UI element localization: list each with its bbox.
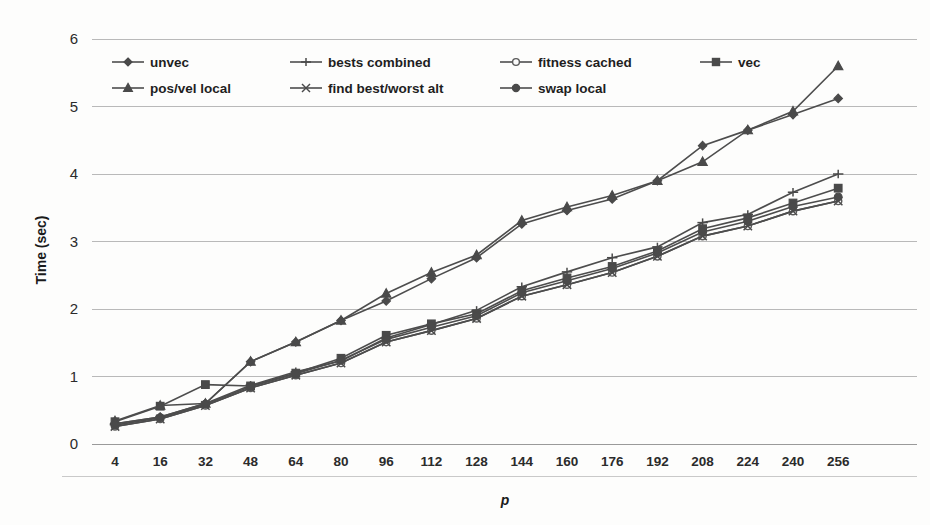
x-tick-label: 64: [288, 454, 304, 469]
data-point-plus: [788, 188, 798, 196]
x-tick-label: 112: [421, 454, 443, 469]
data-point-plus: [301, 58, 311, 66]
legend-label: swap local: [538, 81, 606, 96]
legend-group: unvecbests combinedfitness cachedvecpos/…: [112, 55, 761, 96]
y-tick-label: 1: [70, 368, 78, 385]
x-axis-title: p: [500, 492, 510, 508]
data-point-circle: [512, 84, 519, 91]
data-point-diamond: [382, 297, 390, 305]
data-point-circle: [292, 370, 300, 378]
data-point-circle: [428, 323, 436, 331]
legend-label: vec: [738, 55, 761, 70]
data-point-circle: [247, 383, 255, 391]
legend-label: bests combined: [328, 55, 431, 70]
data-point-circle: [654, 249, 662, 257]
x-tick-label: 4: [111, 454, 119, 469]
data-point-triangle: [698, 157, 707, 165]
x-tick-label: 240: [782, 454, 805, 469]
x-tick-label: 192: [646, 454, 669, 469]
series-group: [110, 61, 844, 430]
x-tick-label: 128: [465, 454, 488, 469]
data-point-diamond: [834, 94, 842, 102]
legend-item-pos-vel-local[interactable]: pos/vel local: [112, 81, 231, 96]
data-point-circle: [608, 265, 616, 273]
x-tick-label: 144: [511, 454, 534, 469]
legend-item-swap-local[interactable]: swap local: [500, 81, 606, 96]
x-tick-label: 256: [827, 454, 850, 469]
y-tick-labels-group: 0123456: [70, 30, 78, 452]
line-chart-svg: 0123456 41632486480961121281441601761922…: [0, 0, 930, 525]
data-point-circle: [699, 228, 707, 236]
y-tick-label: 5: [70, 98, 78, 115]
y-tick-label: 4: [70, 165, 78, 182]
data-point-circle: [337, 357, 345, 365]
data-point-circle: [473, 312, 481, 320]
x-tick-label: 160: [556, 454, 579, 469]
y-tick-label: 2: [70, 300, 78, 317]
data-point-square: [712, 58, 719, 65]
legend-item-fitness-cached[interactable]: fitness cached: [500, 55, 632, 70]
series-pos-vel-local-upper: [110, 61, 842, 424]
x-tick-label: 96: [379, 454, 395, 469]
legend-item-vec[interactable]: vec: [700, 55, 761, 70]
data-point-square: [834, 184, 842, 192]
data-point-triangle: [382, 289, 391, 297]
legend-label: pos/vel local: [150, 81, 231, 96]
data-point-diamond: [124, 58, 132, 66]
legend-item-find-best-worst-alt[interactable]: find best/worst alt: [290, 81, 444, 96]
x-tick-label: 176: [601, 454, 624, 469]
data-point-circle: [789, 203, 797, 211]
data-point-plus: [607, 254, 617, 262]
y-tick-label: 6: [70, 30, 78, 47]
legend-label: unvec: [150, 55, 190, 70]
x-tick-label: 48: [243, 454, 259, 469]
data-point-circle-open: [513, 59, 520, 66]
y-tick-label: 0: [70, 435, 78, 452]
x-tick-label: 224: [737, 454, 760, 469]
data-point-square: [202, 381, 210, 389]
data-point-plus: [833, 170, 843, 178]
x-tick-label: 80: [333, 454, 348, 469]
data-point-circle: [744, 217, 752, 225]
data-point-triangle: [834, 61, 843, 69]
x-tick-label: 208: [691, 454, 714, 469]
legend-label: fitness cached: [538, 55, 632, 70]
legend-label: find best/worst alt: [328, 81, 444, 96]
chart-figure: 0123456 41632486480961121281441601761922…: [0, 0, 930, 525]
data-point-circle: [518, 289, 526, 297]
series-unvec-upper: [111, 94, 843, 428]
y-axis-title: Time (sec): [33, 216, 49, 285]
legend-item-unvec[interactable]: unvec: [112, 55, 190, 70]
data-point-circle: [834, 193, 842, 201]
legend-item-bests-combined[interactable]: bests combined: [290, 55, 431, 70]
data-point-circle: [563, 277, 571, 285]
series-line: [115, 66, 838, 421]
x-tick-label: 16: [153, 454, 169, 469]
x-tick-label: 32: [198, 454, 213, 469]
data-point-circle: [382, 336, 390, 344]
x-tick-labels-group: 4163248648096112128144160176192208224240…: [111, 454, 850, 469]
y-tick-label: 3: [70, 233, 78, 250]
